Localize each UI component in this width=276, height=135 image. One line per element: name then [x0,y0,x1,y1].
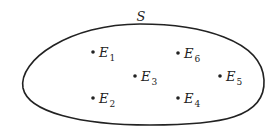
sample-space-diagram: S E1E2E3E4E5E6 [0,0,276,135]
point-marker [91,50,95,54]
point-marker [218,74,222,78]
point-label: E4 [183,91,201,109]
point-label: E1 [98,45,115,63]
point-marker [133,74,137,78]
point-marker [176,51,180,55]
point-label: E6 [183,46,201,64]
point-marker [176,96,180,100]
set-label: S [137,9,146,24]
point-marker [91,96,95,100]
point-label: E3 [140,69,158,87]
point-label: E5 [225,69,243,87]
point-label: E2 [98,91,115,109]
